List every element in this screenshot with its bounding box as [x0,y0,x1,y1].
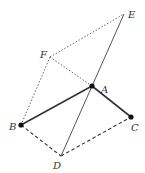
segment-B-D [21,125,61,156]
point-A-dot [89,83,94,88]
label-D: D [52,160,61,171]
point-C-dot [128,114,133,119]
segment-F-E [50,14,124,57]
segment-A-B [21,86,92,125]
label-A: A [100,84,108,95]
segment-D-C [61,117,131,156]
segment-F-A [50,57,92,86]
point-B-dot [18,122,23,127]
label-C: C [131,122,139,133]
label-B: B [8,121,16,132]
label-F: F [39,49,48,60]
segment-A-C [92,86,131,117]
segment-F-B [21,57,50,125]
label-E: E [127,9,136,20]
geometry-diagram: A B C D E F [0,0,145,173]
